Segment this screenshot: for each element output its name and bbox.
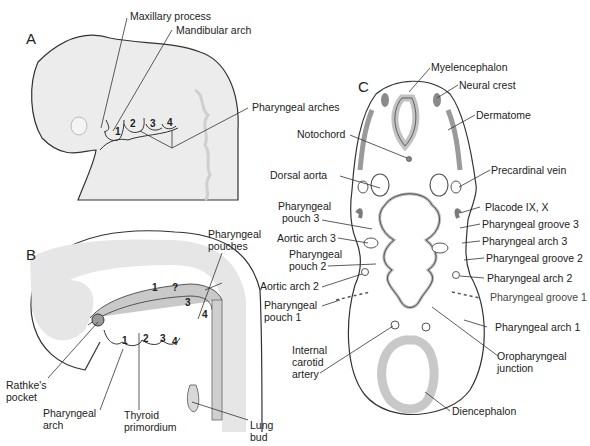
label-pharyngeal-arch-2: arch <box>43 420 63 431</box>
label-myelencephalon: Myelencephalon <box>431 62 507 73</box>
svg-text:4: 4 <box>172 336 178 347</box>
label-pharyngeal-pouch-2-2: pouch 2 <box>289 261 326 272</box>
label-diencephalon: Diencephalon <box>452 406 516 417</box>
label-aortic-arch-2: Aortic arch 2 <box>260 281 319 292</box>
label-pharyngeal-arch-2: Pharyngeal arch 2 <box>487 273 572 284</box>
label-maxillary-process: Maxillary process <box>130 11 211 22</box>
label-oropharyngeal-junction: Oropharyngeal <box>497 351 566 362</box>
panel-label-a: A <box>26 30 36 47</box>
svg-text:1: 1 <box>122 335 128 346</box>
label-lung-bud-2: bud <box>250 432 268 443</box>
label-pharyngeal-pouch-3-2: pouch 3 <box>282 213 319 224</box>
label-pharyngeal-groove-1: Pharyngeal groove 1 <box>490 292 587 303</box>
label-pharyngeal-pouch-2: Pharyngeal <box>289 249 342 260</box>
label-internal-carotid: Internal <box>292 345 327 356</box>
label-pharyngeal-pouch-1-2: pouch 1 <box>264 312 301 323</box>
label-neural-crest: Neural crest <box>459 80 516 91</box>
label-mandibular-arch: Mandibular arch <box>176 25 251 36</box>
panel-label-c: C <box>358 78 369 95</box>
label-pharyngeal-groove-3: Pharyngeal groove 3 <box>482 219 579 230</box>
label-thyroid-primordium: Thyroid <box>124 410 159 421</box>
label-dorsal-aorta: Dorsal aorta <box>270 170 327 181</box>
label-internal-carotid-3: artery <box>292 369 319 380</box>
panel-b-embryo: 1 2 3 4 1 ? 3 4 <box>30 231 262 432</box>
label-pharyngeal-arch-1: Pharyngeal arch 1 <box>495 322 580 333</box>
svg-text:2: 2 <box>130 118 136 129</box>
label-dermatome: Dermatome <box>476 110 531 121</box>
label-aortic-arch-3: Aortic arch 3 <box>277 233 336 244</box>
panel-a-embryo: 1 2 3 4 <box>32 18 248 200</box>
embryology-figure: 1 2 3 4 1 2 3 4 1 ? 3 4 <box>0 0 590 446</box>
label-pharyngeal-arches: Pharyngeal arches <box>252 102 340 113</box>
label-pharyngeal-pouches: Pharyngeal <box>208 229 261 240</box>
svg-text:3: 3 <box>150 118 156 129</box>
label-pharyngeal-pouches-2: pouches <box>208 241 248 252</box>
label-pharyngeal-groove-2: Pharyngeal groove 2 <box>486 253 583 264</box>
label-oropharyngeal-junction-2: junction <box>497 363 533 374</box>
svg-text:1: 1 <box>152 282 158 293</box>
label-thyroid-primordium-2: primordium <box>124 422 177 433</box>
panel-c-section <box>320 68 498 414</box>
label-rathkes-pocket-2: pocket <box>6 392 37 403</box>
svg-text:?: ? <box>172 282 178 293</box>
label-placode: Placode IX, X <box>485 202 549 213</box>
label-pharyngeal-pouch-1: Pharyngeal <box>264 300 317 311</box>
label-pharyngeal-arch-3: Pharyngeal arch 3 <box>482 236 567 247</box>
svg-text:2: 2 <box>143 333 149 344</box>
label-internal-carotid-2: carotid <box>292 357 324 368</box>
svg-text:3: 3 <box>185 297 191 308</box>
svg-text:4: 4 <box>202 309 208 320</box>
label-precardinal-vein: Precardinal vein <box>491 165 566 176</box>
label-lung-bud: Lung <box>250 420 273 431</box>
panel-label-b: B <box>26 246 36 263</box>
svg-text:3: 3 <box>160 333 166 344</box>
svg-text:1: 1 <box>115 126 121 137</box>
label-pharyngeal-arch: Pharyngeal <box>43 408 96 419</box>
label-notochord: Notochord <box>297 129 345 140</box>
label-rathkes-pocket: Rathke's <box>6 380 47 391</box>
label-pharyngeal-pouch-3: Pharyngeal <box>278 201 331 212</box>
svg-text:4: 4 <box>167 117 173 128</box>
